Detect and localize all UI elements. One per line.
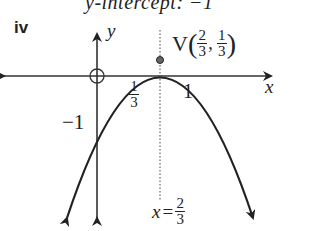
vertex-x-numerator: 2: [198, 28, 206, 43]
numerator: 1: [130, 79, 138, 94]
x-intercept-third-label: 1 3: [129, 79, 139, 110]
vertex-y-numerator: 1: [218, 28, 226, 43]
aos-equals: =: [162, 201, 173, 223]
vertex-y-denominator: 3: [218, 44, 226, 59]
vertex-letter: V: [172, 31, 188, 57]
aos-denominator: 3: [176, 212, 184, 227]
aos-variable: x: [152, 201, 160, 223]
vertex-x-denominator: 3: [198, 44, 206, 59]
vertex-label: V ( 2 3 , 1 3 ): [172, 28, 236, 59]
y-axis-label: y: [107, 20, 115, 42]
x-intercept-one-label: 1: [183, 80, 193, 103]
aos-numerator: 2: [176, 196, 184, 211]
axis-of-symmetry-label: x = 2 3: [152, 196, 185, 227]
vertex-dot: [157, 57, 164, 64]
y-intercept-label: −1: [62, 110, 84, 135]
x-axis-label: x: [265, 76, 273, 98]
denominator: 3: [130, 95, 138, 110]
